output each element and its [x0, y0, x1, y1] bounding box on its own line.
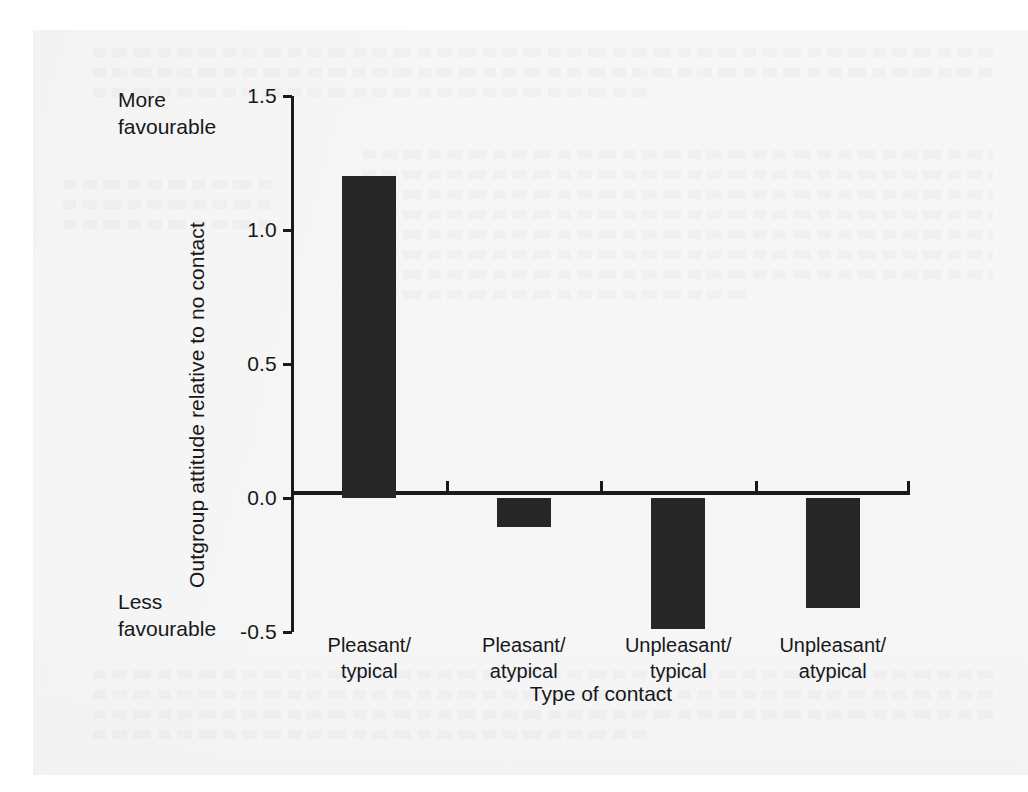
x-axis-category-label: Unpleasant/ atypical: [738, 632, 928, 685]
y-axis-tick: [283, 229, 292, 232]
y-axis-tick-label: 1.0: [217, 218, 277, 242]
y-axis-title: Outgroup attitude relative to no contact: [185, 168, 209, 588]
y-axis-tick-label: 0.0: [217, 486, 277, 510]
y-axis-tick-label: 0.5: [217, 352, 277, 376]
x-axis-title: Type of contact: [292, 682, 910, 706]
x-axis-end-tick: [907, 481, 910, 493]
annotation-more-favourable: More favourable: [118, 86, 216, 141]
y-axis-tick: [283, 363, 292, 366]
x-axis-tick: [446, 481, 449, 492]
y-axis-tick: [283, 631, 292, 634]
y-axis-tick-label: -0.5: [217, 620, 277, 644]
bar: [497, 498, 551, 527]
y-axis-tick-label: 1.5: [217, 84, 277, 108]
y-axis-tick: [283, 497, 292, 500]
x-axis-tick: [600, 481, 603, 492]
x-axis-tick: [755, 481, 758, 492]
annotation-less-favourable: Less favourable: [118, 588, 216, 643]
bar: [342, 176, 396, 498]
bar: [651, 498, 705, 629]
y-axis-tick: [283, 95, 292, 98]
bar-chart: More favourable Less favourable 1.51.00.…: [0, 0, 1028, 792]
bar: [806, 498, 860, 608]
y-axis-ticks: 1.51.00.50.0-0.5: [225, 96, 277, 632]
